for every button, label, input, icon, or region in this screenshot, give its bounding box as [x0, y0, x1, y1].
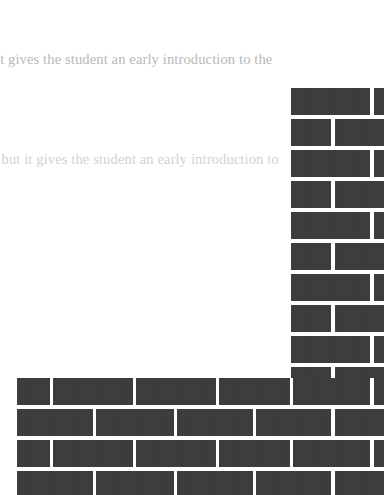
brick-band-unit [17, 440, 50, 467]
brick-band-unit [17, 409, 93, 436]
body-text-line-2: , but it gives the student an early intr… [0, 151, 279, 168]
brick-band-unit [256, 409, 331, 436]
brick-band-unit [96, 409, 174, 436]
brick-column-unit [335, 119, 384, 146]
brick-band-unit [374, 378, 384, 405]
brick-column-unit [291, 336, 370, 363]
brick-band-unit [293, 378, 370, 405]
brick-column-unit [374, 274, 384, 301]
brick-column-unit [335, 181, 384, 208]
brick-column-unit [374, 212, 384, 239]
brick-band-unit [219, 378, 290, 405]
body-text-line-1: it gives the student an early introducti… [0, 51, 272, 68]
brick-column-unit [291, 305, 331, 332]
brick-column-unit [291, 150, 370, 177]
brick-band-unit [335, 471, 384, 495]
brick-band-unit [335, 409, 384, 436]
page-canvas: it gives the student an early introducti… [0, 0, 384, 495]
brick-column-unit [374, 88, 384, 115]
brick-column-unit [291, 274, 370, 301]
brick-column-unit [335, 305, 384, 332]
brick-column-unit [335, 243, 384, 270]
brick-column-unit [291, 367, 331, 378]
brick-band-unit [96, 471, 174, 495]
brick-column-unit [291, 243, 331, 270]
brick-band-unit [53, 440, 133, 467]
brick-band-unit [256, 471, 331, 495]
brick-band-unit [53, 378, 133, 405]
brick-wall [0, 0, 384, 495]
brick-column-unit [291, 212, 370, 239]
brick-band-unit [17, 471, 93, 495]
brick-band-unit [136, 378, 216, 405]
brick-column-unit [291, 181, 331, 208]
brick-band-unit [136, 440, 216, 467]
brick-band-unit [17, 378, 50, 405]
brick-band-unit [177, 409, 253, 436]
brick-band-unit [293, 440, 370, 467]
brick-band-unit [177, 471, 253, 495]
brick-band-unit [374, 440, 384, 467]
brick-column-unit [291, 88, 370, 115]
brick-column-unit [335, 367, 384, 378]
brick-column-unit [374, 336, 384, 363]
brick-column-unit [374, 150, 384, 177]
brick-column-unit [291, 119, 331, 146]
brick-band-unit [219, 440, 290, 467]
